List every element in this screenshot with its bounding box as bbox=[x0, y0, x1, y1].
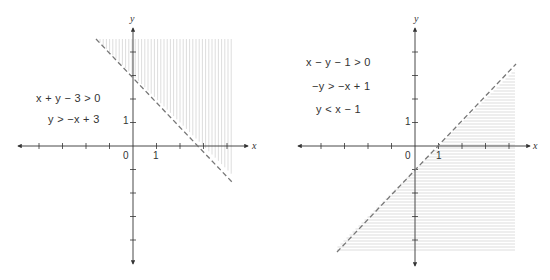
left-origin-label: 0 bbox=[123, 150, 129, 161]
right-shading-horizontal-hatch bbox=[337, 70, 515, 250]
right-inequality-2: −y > −x + 1 bbox=[312, 80, 370, 92]
right-inequality-3: y < x − 1 bbox=[316, 103, 361, 115]
right-origin-label: 0 bbox=[405, 150, 411, 161]
left-x-one-label: 1 bbox=[153, 150, 159, 161]
left-y-axis-label: y bbox=[130, 13, 134, 24]
right-boundary-dashed-line bbox=[337, 64, 516, 252]
left-y-one-label: 1 bbox=[123, 115, 129, 126]
left-graph bbox=[18, 28, 248, 264]
left-inequality-1: x + y − 3 > 0 bbox=[36, 92, 101, 104]
right-x-axis-label: x bbox=[533, 140, 537, 151]
graphs-canvas bbox=[0, 0, 550, 280]
left-shading-vertical-hatch bbox=[100, 39, 231, 174]
right-y-axis-label: y bbox=[414, 13, 418, 24]
right-inequality-1: x − y − 1 > 0 bbox=[306, 56, 371, 68]
left-x-axis-label: x bbox=[252, 140, 256, 151]
right-y-one-label: 1 bbox=[405, 116, 411, 127]
left-inequality-2: y > −x + 3 bbox=[48, 113, 100, 125]
right-x-one-label: 1 bbox=[436, 150, 442, 161]
